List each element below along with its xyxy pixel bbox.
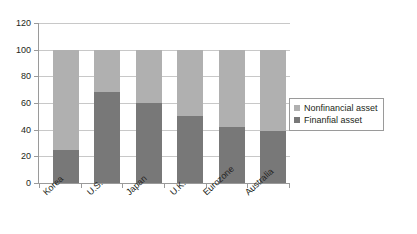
bar-segment-nonfinancial — [260, 50, 286, 131]
bar-eurozone — [219, 50, 245, 183]
bar-uk — [177, 50, 203, 183]
legend-item-nonfinancial-asset: Nonfinancial asset — [294, 102, 378, 114]
y-tick-label-120: 120 — [16, 19, 31, 28]
y-axis-labels: 120 100 80 60 40 20 0 — [0, 0, 31, 234]
y-tick-label-0: 0 — [26, 179, 31, 188]
legend-label: Nonfinancial asset — [304, 103, 378, 113]
plot-area — [39, 23, 290, 183]
y-tick-label-40: 40 — [21, 126, 31, 135]
y-tick-label-80: 80 — [21, 72, 31, 81]
bar-segment-financial — [136, 103, 162, 183]
legend: Nonfinancial asset Finanfial asset — [289, 98, 384, 131]
bar-japan — [136, 50, 162, 183]
x-tick-mark-0 — [39, 184, 40, 188]
bar-korea — [53, 50, 79, 183]
y-tick-label-20: 20 — [21, 152, 31, 161]
legend-item-financial-asset: Finanfial asset — [294, 114, 378, 126]
x-tick-mark-3 — [164, 184, 165, 188]
x-tick-mark-6 — [289, 184, 290, 188]
legend-swatch-icon — [294, 105, 300, 111]
bar-segment-financial — [94, 92, 120, 183]
bar-segment-nonfinancial — [136, 50, 162, 103]
x-tick-mark-1 — [81, 184, 82, 188]
bar-segment-nonfinancial — [94, 50, 120, 93]
x-tick-mark-2 — [122, 184, 123, 188]
y-tick-label-60: 60 — [21, 99, 31, 108]
bar-segment-nonfinancial — [177, 50, 203, 117]
legend-swatch-icon — [294, 117, 300, 123]
bar-segment-nonfinancial — [219, 50, 245, 127]
bar-us — [94, 50, 120, 183]
bar-segment-financial — [177, 116, 203, 183]
gridline-120 — [39, 23, 290, 24]
bar-segment-nonfinancial — [53, 50, 79, 150]
stacked-bar-chart: 120 100 80 60 40 20 0 — [0, 0, 417, 234]
legend-label: Finanfial asset — [304, 115, 362, 125]
y-tick-label-100: 100 — [16, 46, 31, 55]
bar-australia — [260, 50, 286, 183]
